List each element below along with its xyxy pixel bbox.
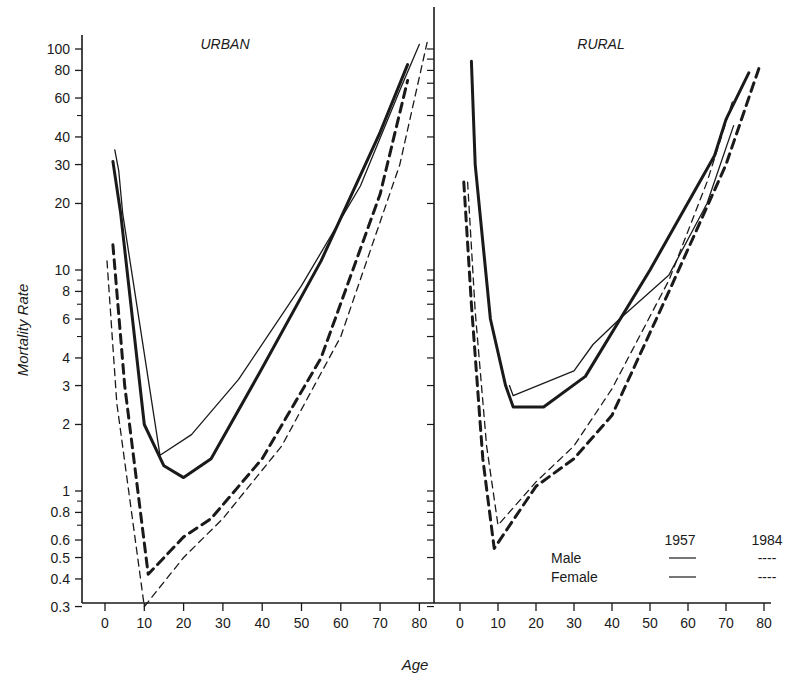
- rural-x-tick-label: 40: [604, 615, 620, 631]
- rural-x-tick-label: 70: [718, 615, 734, 631]
- legend-male-1984-swatch: ----: [758, 550, 777, 566]
- urban-x-tick-label: 50: [294, 615, 310, 631]
- urban-x-tick-label: 20: [176, 615, 192, 631]
- y-tick-label: 3: [62, 378, 70, 394]
- axes: 1008060403020108643210.80.60.50.40.30102…: [47, 7, 772, 631]
- urban-male-1957-line: [113, 65, 408, 478]
- rural-female-1984-line: [468, 98, 734, 525]
- legend-label-female: Female: [551, 569, 598, 585]
- y-tick-label: 0.3: [51, 599, 71, 615]
- legend-female-1984-swatch: ----: [758, 569, 777, 585]
- urban-female-1957-line: [115, 44, 420, 455]
- rural-x-tick-label: 50: [642, 615, 658, 631]
- rural-x-tick-label: 20: [528, 615, 544, 631]
- rural-x-tick-label: 0: [456, 615, 464, 631]
- y-tick-label: 1: [62, 483, 70, 499]
- legend-header-1984: 1984: [751, 532, 782, 548]
- rural-panel-title: RURAL: [577, 36, 624, 52]
- y-axis-title: Mortality Rate: [14, 284, 31, 377]
- y-tick-label: 100: [47, 41, 71, 57]
- y-tick-label: 8: [62, 283, 70, 299]
- urban-x-tick-label: 70: [372, 615, 388, 631]
- y-tick-label: 80: [54, 62, 70, 78]
- y-tick-label: 30: [54, 157, 70, 173]
- rural-male-1984-line: [464, 65, 760, 549]
- y-tick-label: 0.5: [51, 550, 71, 566]
- urban-female-1984-line: [107, 42, 427, 607]
- y-tick-label: 6: [62, 311, 70, 327]
- urban-x-tick-label: 80: [412, 615, 428, 631]
- y-tick-label: 0.8: [51, 504, 71, 520]
- rural-x-tick-label: 60: [680, 615, 696, 631]
- legend-header-1957: 1957: [664, 532, 695, 548]
- urban-panel-title: URBAN: [200, 36, 250, 52]
- y-tick-label: 2: [62, 416, 70, 432]
- urban-x-tick-label: 60: [333, 615, 349, 631]
- legend: 1957 1984 Male Female ---- ----: [551, 532, 783, 585]
- urban-male-1984-line: [113, 81, 408, 575]
- urban-x-tick-label: 10: [137, 615, 153, 631]
- x-axis-title: Age: [401, 656, 429, 673]
- y-tick-label: 60: [54, 90, 70, 106]
- rural-female-1957-line: [509, 126, 733, 396]
- rural-male-1957-line: [471, 61, 748, 407]
- y-tick-label: 4: [62, 350, 70, 366]
- urban-x-tick-label: 0: [101, 615, 109, 631]
- rural-x-tick-label: 30: [566, 615, 582, 631]
- y-tick-label: 10: [54, 262, 70, 278]
- rural-x-tick-label: 80: [756, 615, 772, 631]
- legend-label-male: Male: [551, 550, 582, 566]
- urban-x-tick-label: 40: [254, 615, 270, 631]
- urban-x-tick-label: 30: [215, 615, 231, 631]
- mortality-chart: 1008060403020108643210.80.60.50.40.30102…: [0, 0, 798, 687]
- y-tick-label: 40: [54, 129, 70, 145]
- rural-x-tick-label: 10: [490, 615, 506, 631]
- y-tick-label: 0.4: [51, 571, 71, 587]
- y-tick-label: 0.6: [51, 532, 71, 548]
- y-tick-label: 20: [54, 195, 70, 211]
